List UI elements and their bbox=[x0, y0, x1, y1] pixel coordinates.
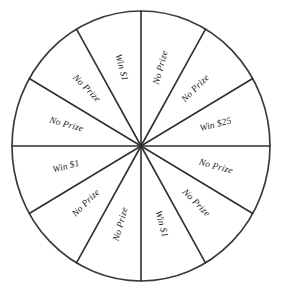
prize-wheel-figure: No PrizeNo PrizeWin $25No PrizeNo PrizeW… bbox=[0, 0, 282, 292]
prize-wheel-canvas: No PrizeNo PrizeWin $25No PrizeNo PrizeW… bbox=[0, 0, 282, 292]
